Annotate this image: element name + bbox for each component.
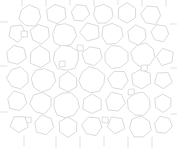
foam-cell [102,117,108,123]
foam-cell [77,45,83,51]
foam-cell [59,61,65,67]
foam-cell [21,31,27,37]
foam-cell [53,45,78,70]
foam-diagram-figure: Two-dimensional foam cell tessellation [0,0,177,156]
foam-tessellation-canvas [0,0,177,156]
foam-cell [128,89,134,95]
foam-cell [141,65,147,71]
